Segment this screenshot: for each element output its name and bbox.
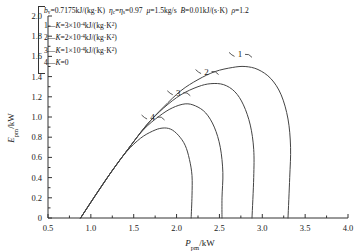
x-tick-label: 2.5 xyxy=(214,223,225,233)
legend-unit: kJ/(kg·K xyxy=(85,46,112,55)
legend-K-eq: =1 xyxy=(60,46,68,55)
rho-value: =1.2 xyxy=(235,6,249,15)
y-tick-label: 0 xyxy=(38,213,42,223)
legend-K-eq: =0 xyxy=(60,58,68,67)
legend: bv=0.7175kJ/(kg·K) ηc=ηs=0.97 μ=1.5kg/s … xyxy=(44,5,356,69)
legend-entry-4: 4—K=0 xyxy=(44,57,356,69)
legend-K-eq: =3 xyxy=(60,21,68,30)
x-tick-label: 1.5 xyxy=(128,223,139,233)
x-axis-unit: /kW xyxy=(199,238,215,248)
legend-unit-end: ) xyxy=(114,46,117,55)
curves-layer xyxy=(81,66,291,218)
data-curve-4 xyxy=(81,128,193,218)
legend-unit: kJ/(kg·K xyxy=(85,34,112,43)
annotation-leader-left xyxy=(167,91,173,95)
x-tick-label: 1.0 xyxy=(86,223,97,233)
mu-value: =1.5kg/s xyxy=(150,6,176,15)
curve-annotation-3: 3 xyxy=(176,88,181,98)
B-value: =0.01kJ/(s·K) xyxy=(185,6,227,15)
legend-entry-2: 2—K=2×10-4kJ/(kg·K2) xyxy=(44,31,356,44)
eta-value: =0.97 xyxy=(125,6,143,15)
curve-annotation-4: 4 xyxy=(150,112,155,122)
y-tick-label: 0.6 xyxy=(31,152,42,162)
x-tick-label: 3.5 xyxy=(300,223,311,233)
legend-header: bv=0.7175kJ/(kg·K) ηc=ηs=0.97 μ=1.5kg/s … xyxy=(44,5,356,19)
annotation-leader-left xyxy=(196,70,202,74)
legend-entry-1: 1—K=3×10-4kJ/(kg·K2) xyxy=(44,19,356,32)
x-tick-label: 4.0 xyxy=(343,223,354,233)
svg-text:Epm/kW: Epm/kW xyxy=(6,113,19,144)
legend-mult: ×10 xyxy=(69,21,81,30)
svg-text:Ppm/kW: Ppm/kW xyxy=(184,238,215,251)
legend-mult: ×10 xyxy=(69,46,81,55)
figure-container: bv=0.7175kJ/(kg·K) ηc=ηs=0.97 μ=1.5kg/s … xyxy=(0,0,358,252)
legend-mult: ×10 xyxy=(69,34,81,43)
x-tick-label: 0.5 xyxy=(43,223,54,233)
y-tick-label: 1.2 xyxy=(31,92,42,102)
y-axis-title: Epm/kW xyxy=(6,113,19,144)
y-tick-label: 0.4 xyxy=(31,173,42,183)
legend-unit-end: ) xyxy=(114,34,117,43)
y-tick-label: 0.2 xyxy=(31,193,42,203)
y-axis-unit: /kW xyxy=(6,113,16,129)
annotation-leader-left xyxy=(142,115,148,119)
x-axis-title: Ppm/kW xyxy=(184,238,215,251)
x-tick-label: 3.0 xyxy=(257,223,268,233)
legend-unit-end: ) xyxy=(114,21,117,30)
annotation-leader-right xyxy=(158,117,165,120)
y-tick-label: 1.0 xyxy=(31,112,42,122)
data-curve-1 xyxy=(81,66,291,218)
legend-K-eq: =2 xyxy=(60,34,68,43)
x-tick-label: 2.0 xyxy=(171,223,182,233)
legend-entry-3: 3—K=1×10-4kJ/(kg·K2) xyxy=(44,44,356,57)
y-axis-subscript: pm xyxy=(12,129,19,137)
legend-unit: kJ/(kg·K xyxy=(85,21,112,30)
x-axis-subscript: pm xyxy=(191,244,199,251)
bv-value: =0.7175kJ/(kg·K) xyxy=(50,6,105,15)
y-tick-label: 0.8 xyxy=(31,132,42,142)
